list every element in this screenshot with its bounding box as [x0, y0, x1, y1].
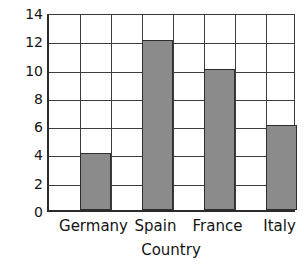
- bar-chart-figure: Number of adults 02468101214 GermanySpai…: [0, 0, 303, 269]
- x-tick-label-italy: Italy: [220, 216, 304, 236]
- x-axis-tick-labels: GermanySpainFranceItaly: [47, 216, 295, 238]
- y-axis-title-text: Number of adults: [0, 0, 18, 32]
- gridline-vertical: [111, 15, 112, 210]
- y-tick-label: 8: [19, 92, 43, 106]
- x-axis-title: Country: [47, 240, 295, 260]
- y-tick-label: 10: [19, 64, 43, 78]
- bar-france: [204, 69, 235, 210]
- gridline-vertical: [173, 15, 174, 210]
- bar-italy: [266, 125, 297, 210]
- y-tick-label: 2: [19, 177, 43, 191]
- plot-area: [47, 14, 295, 212]
- y-tick-label: 14: [19, 7, 43, 21]
- gridline-vertical: [235, 15, 236, 210]
- y-tick-label: 4: [19, 148, 43, 162]
- bar-spain: [142, 40, 173, 210]
- bar-germany: [80, 153, 111, 210]
- y-tick-label: 12: [19, 35, 43, 49]
- chart-title-clipped: [0, 0, 303, 6]
- y-tick-label: 6: [19, 120, 43, 134]
- y-axis-title: Number of adults: [0, 0, 18, 32]
